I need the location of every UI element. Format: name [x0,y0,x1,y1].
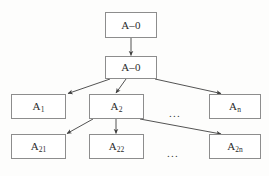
node-a0[interactable]: A–0 [105,56,157,79]
node-a2-label: A2 [111,101,123,112]
ellipsis-level-3: ... [167,148,179,159]
node-a1[interactable]: A1 [11,94,66,119]
node-a2n-label: A2n [227,141,243,152]
node-a21-label: A21 [31,141,47,152]
node-a1-label: A1 [33,101,45,112]
node-an[interactable]: An [209,94,261,119]
node-a0-label: A–0 [121,62,141,73]
edge-a0-to-a1 [68,79,110,94]
node-root[interactable]: A–0 [105,12,157,38]
node-root-label: A–0 [121,20,141,31]
node-a21[interactable]: A21 [11,134,66,159]
edge-a2-to-a2n [140,119,221,134]
node-an-label: An [229,101,241,112]
edge-a0-to-an [155,79,221,94]
node-a2[interactable]: A2 [89,94,144,119]
node-a22[interactable]: A22 [89,134,144,159]
node-a2n[interactable]: A2n [209,134,261,159]
ellipsis-level-2: ... [169,108,181,119]
edge-a2-to-a21 [67,119,93,134]
edge-a0-to-a2 [116,79,126,93]
tree-diagram: A–0 A–0 A1 A2 ... An A21 A22 ... [0,0,269,176]
node-a22-label: A22 [109,141,125,152]
